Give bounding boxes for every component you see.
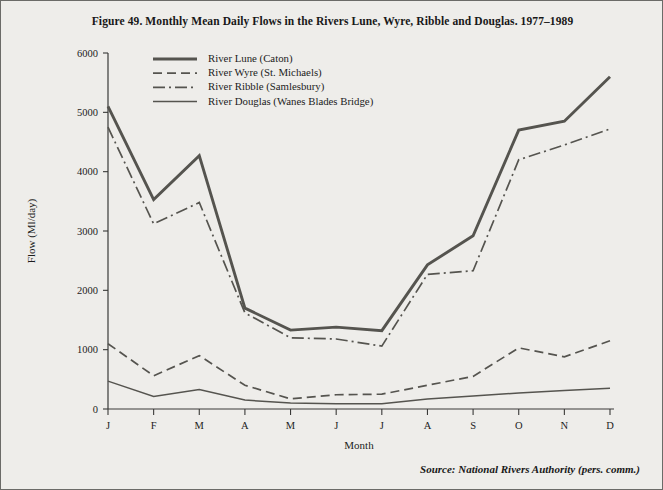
y-axis: 0100020003000400050006000 [77, 48, 108, 415]
x-tick-label: F [151, 420, 157, 431]
y-tick-label: 6000 [77, 48, 98, 59]
figure-container: Figure 49. Monthly Mean Daily Flows in t… [0, 0, 663, 490]
x-tick-label: O [515, 420, 523, 431]
x-tick-label: A [424, 420, 432, 431]
x-axis-title: Month [344, 439, 374, 451]
series-lines [108, 77, 610, 404]
legend-label-0: River Lune (Caton) [208, 52, 293, 65]
x-tick-label: J [380, 420, 384, 431]
y-tick-label: 5000 [77, 107, 98, 118]
chart-legend: River Lune (Caton)River Wyre (St. Michae… [153, 52, 374, 108]
series-line-3 [108, 381, 610, 404]
y-tick-label: 2000 [77, 285, 98, 296]
series-line-1 [108, 341, 610, 399]
source-note: Source: National Rivers Authority (pers.… [420, 463, 640, 475]
legend-label-1: River Wyre (St. Michaels) [208, 66, 322, 79]
x-tick-label: M [195, 420, 205, 431]
y-axis-title: Flow (Ml/day) [25, 198, 38, 263]
y-tick-label: 4000 [77, 166, 98, 177]
x-tick-label: N [561, 420, 569, 431]
legend-label-3: River Douglas (Wanes Blades Bridge) [208, 95, 374, 108]
y-tick-label: 1000 [77, 344, 98, 355]
x-tick-label: M [286, 420, 296, 431]
x-axis: JFMAMJJASOND [106, 409, 614, 431]
x-tick-label: S [470, 420, 476, 431]
x-tick-label: J [106, 420, 110, 431]
y-tick-label: 0 [93, 404, 98, 415]
x-tick-label: D [606, 420, 614, 431]
x-tick-label: J [334, 420, 338, 431]
x-tick-label: A [241, 420, 249, 431]
series-line-2 [108, 127, 610, 346]
series-line-0 [108, 77, 610, 331]
legend-label-2: River Ribble (Samlesbury) [208, 80, 325, 93]
y-tick-label: 3000 [77, 226, 98, 237]
line-chart: 0100020003000400050006000 JFMAMJJASOND R… [1, 1, 663, 490]
